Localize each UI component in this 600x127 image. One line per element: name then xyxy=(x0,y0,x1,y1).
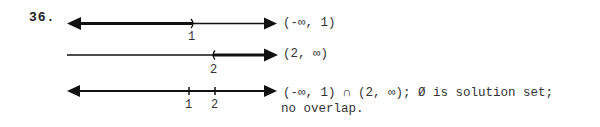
tick-label: 2 xyxy=(211,98,218,112)
arrow-right-icon xyxy=(264,18,277,30)
interval-text-3-cont: no overlap. xyxy=(281,102,364,117)
number-line-3 xyxy=(67,85,277,97)
interval-text-1: (-∞, 1) xyxy=(283,16,336,31)
tick-label: 2 xyxy=(210,63,217,77)
number-line-1 xyxy=(67,17,277,30)
arrow-right-icon xyxy=(264,85,277,97)
arrow-left-icon xyxy=(67,85,80,97)
interval-text-2: (2, ∞) xyxy=(283,47,328,62)
arrow-right-icon xyxy=(264,49,278,62)
tick-label: 1 xyxy=(188,30,195,44)
tick-label: 1 xyxy=(185,98,192,112)
arrow-left-icon xyxy=(67,17,81,30)
interval-text-3: (-∞, 1) ∩ (2, ∞); Ø is solution set; xyxy=(283,86,553,101)
number-line-2 xyxy=(67,49,278,62)
